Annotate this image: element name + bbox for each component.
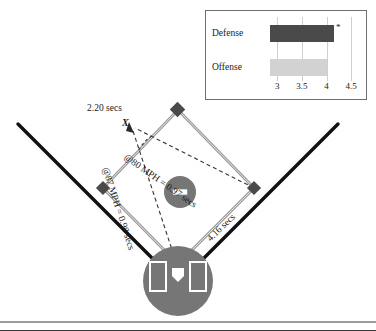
home-plate-circle bbox=[143, 246, 213, 316]
bar-defense bbox=[270, 25, 334, 42]
gridline-4.5 bbox=[351, 17, 352, 81]
label-time-to-x: 2.20 secs bbox=[87, 103, 122, 113]
category-label-offense: Offense bbox=[212, 62, 242, 72]
figure-canvas: 2.20 secs X @80 MPH = 0.97 secs @87 MPH … bbox=[0, 0, 376, 331]
x-tick-label: 4 bbox=[324, 81, 329, 91]
x-tick-label: 3 bbox=[275, 81, 280, 91]
category-label-defense: Defense bbox=[212, 28, 243, 38]
inset-bar-chart-panel: 33.544.5DefenseOffense* bbox=[205, 10, 367, 100]
label-point-x: X bbox=[122, 117, 129, 128]
significance-asterisk: * bbox=[336, 23, 341, 32]
bar-chart: 33.544.5DefenseOffense* bbox=[210, 15, 362, 95]
batters-box-right bbox=[190, 262, 206, 291]
x-tick-label: 4.5 bbox=[345, 81, 356, 91]
inset-chart-plot: 33.544.5DefenseOffense* bbox=[210, 15, 362, 95]
bar-offense bbox=[270, 59, 327, 76]
batters-box-left bbox=[150, 262, 166, 291]
x-tick-label: 3.5 bbox=[296, 81, 307, 91]
